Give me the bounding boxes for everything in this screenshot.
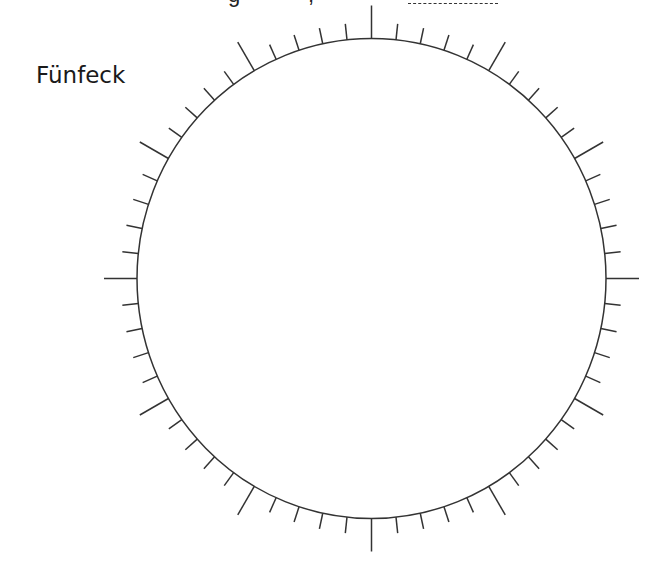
minor-tick — [528, 88, 539, 100]
circle-dial-diagram — [0, 0, 654, 564]
minor-tick — [528, 457, 539, 469]
minor-tick — [467, 498, 474, 513]
minor-tick — [126, 328, 142, 331]
major-tick — [489, 486, 506, 515]
minor-tick — [319, 28, 322, 44]
minor-tick — [224, 71, 233, 84]
circle-outline — [137, 39, 606, 519]
minor-tick — [605, 304, 621, 306]
major-tick — [140, 142, 169, 159]
minor-tick — [420, 28, 423, 44]
minor-tick — [345, 24, 347, 40]
minor-tick — [204, 457, 215, 469]
minor-tick — [270, 45, 277, 60]
major-tick — [575, 399, 604, 416]
minor-tick — [143, 376, 158, 383]
minor-tick — [396, 24, 398, 40]
minor-tick — [270, 498, 277, 513]
minor-tick — [224, 473, 233, 486]
minor-tick — [169, 420, 182, 429]
minor-tick — [595, 353, 610, 358]
minor-tick — [122, 252, 138, 254]
minor-tick — [126, 225, 142, 228]
minor-tick — [586, 174, 601, 181]
minor-tick — [605, 252, 621, 254]
minor-tick — [319, 513, 322, 529]
minor-tick — [561, 128, 574, 137]
minor-tick — [294, 35, 299, 50]
minor-tick — [546, 439, 558, 450]
minor-tick — [122, 304, 138, 306]
minor-tick — [561, 420, 574, 429]
minor-tick — [509, 71, 518, 84]
major-tick — [489, 42, 506, 71]
major-tick — [140, 399, 169, 416]
tick-marks — [104, 6, 639, 552]
major-tick — [575, 142, 604, 159]
minor-tick — [601, 328, 617, 331]
minor-tick — [595, 199, 610, 204]
minor-tick — [444, 35, 449, 50]
minor-tick — [546, 107, 558, 118]
minor-tick — [467, 45, 474, 60]
minor-tick — [420, 513, 423, 529]
minor-tick — [345, 517, 347, 533]
minor-tick — [601, 225, 617, 228]
major-tick — [238, 42, 255, 71]
minor-tick — [396, 517, 398, 533]
minor-tick — [169, 128, 182, 137]
minor-tick — [294, 507, 299, 522]
minor-tick — [133, 199, 148, 204]
minor-tick — [509, 473, 518, 486]
minor-tick — [143, 174, 158, 181]
major-tick — [238, 486, 255, 515]
minor-tick — [185, 107, 197, 118]
minor-tick — [204, 88, 215, 100]
minor-tick — [185, 439, 197, 450]
minor-tick — [586, 376, 601, 383]
minor-tick — [133, 353, 148, 358]
minor-tick — [444, 507, 449, 522]
